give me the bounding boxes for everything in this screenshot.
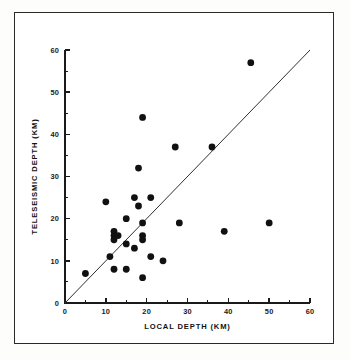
data-point-28 bbox=[266, 219, 273, 226]
x-tick-label-40: 40 bbox=[224, 307, 233, 316]
axis-labels-group: 01020304050600102030405060LOCAL DEPTH (K… bbox=[30, 46, 314, 331]
data-point-14 bbox=[135, 165, 142, 172]
data-point-25 bbox=[209, 144, 216, 151]
data-point-22 bbox=[160, 257, 167, 264]
data-point-27 bbox=[247, 59, 254, 66]
y-tick-label-10: 10 bbox=[50, 257, 59, 266]
data-point-0 bbox=[82, 270, 89, 277]
x-axis-title: LOCAL DEPTH (KM) bbox=[144, 322, 230, 331]
x-tick-label-30: 30 bbox=[183, 307, 192, 316]
data-point-20 bbox=[147, 194, 154, 201]
y-tick-label-20: 20 bbox=[50, 214, 59, 223]
y-tick-label-60: 60 bbox=[50, 46, 59, 55]
data-point-8 bbox=[123, 215, 130, 222]
data-point-18 bbox=[139, 236, 146, 243]
data-point-12 bbox=[131, 245, 138, 252]
x-tick-label-20: 20 bbox=[142, 307, 151, 316]
data-point-13 bbox=[135, 203, 142, 210]
y-tick-label-50: 50 bbox=[50, 88, 59, 97]
y-tick-label-30: 30 bbox=[50, 172, 59, 181]
x-tick-label-10: 10 bbox=[102, 307, 111, 316]
y-tick-label-40: 40 bbox=[50, 130, 59, 139]
scatter-plot: 01020304050600102030405060LOCAL DEPTH (K… bbox=[0, 0, 350, 360]
data-point-16 bbox=[139, 219, 146, 226]
x-tick-label-0: 0 bbox=[63, 307, 67, 316]
reference-line-group bbox=[65, 50, 310, 303]
data-point-1 bbox=[102, 198, 109, 205]
data-point-26 bbox=[221, 228, 228, 235]
y-tick-label-0: 0 bbox=[55, 299, 59, 308]
data-points-group bbox=[82, 59, 273, 281]
data-point-23 bbox=[172, 144, 179, 151]
data-point-9 bbox=[123, 241, 130, 248]
data-point-10 bbox=[123, 266, 130, 273]
data-point-15 bbox=[139, 114, 146, 121]
figure-root: 01020304050600102030405060LOCAL DEPTH (K… bbox=[0, 0, 350, 360]
data-point-19 bbox=[139, 274, 146, 281]
one-to-one-reference-line bbox=[65, 50, 310, 303]
x-tick-label-60: 60 bbox=[306, 307, 315, 316]
data-point-7 bbox=[115, 232, 122, 239]
x-tick-label-50: 50 bbox=[265, 307, 274, 316]
data-point-11 bbox=[131, 194, 138, 201]
data-point-21 bbox=[147, 253, 154, 260]
data-point-24 bbox=[176, 219, 183, 226]
y-axis-title: TELESEISMIC DEPTH (KM) bbox=[30, 118, 39, 234]
data-point-2 bbox=[107, 253, 114, 260]
data-point-6 bbox=[111, 266, 118, 273]
